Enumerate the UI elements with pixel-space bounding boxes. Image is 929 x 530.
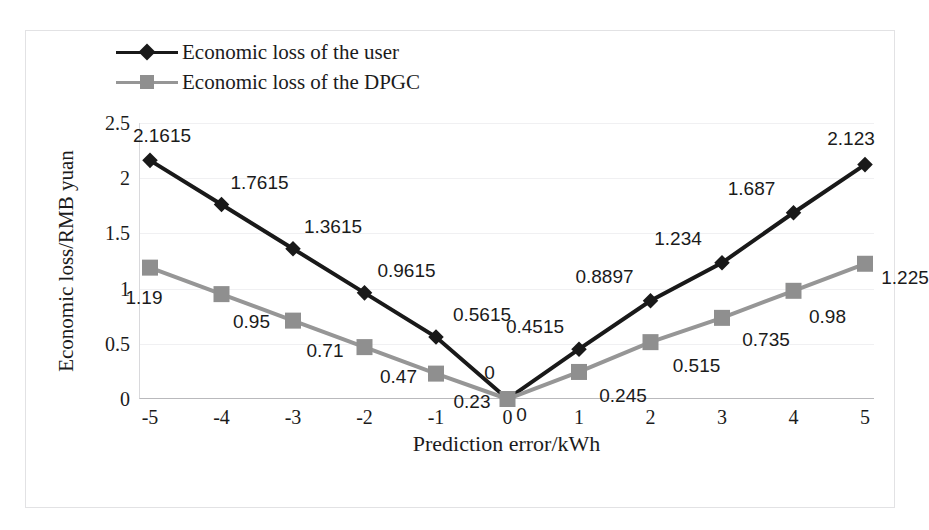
data-point-label: 0.23 — [454, 391, 491, 413]
data-point-label: 1.7615 — [230, 172, 288, 194]
chart-figure: Economic loss of the user Economic loss … — [25, 30, 895, 508]
x-tick-label: -4 — [213, 406, 230, 429]
data-point-label: 1.3615 — [304, 216, 362, 238]
y-tick-label: 2.5 — [105, 112, 130, 135]
data-point-label: 1.225 — [881, 267, 929, 289]
square-marker-icon — [285, 313, 301, 329]
x-tick-label: 0 — [503, 406, 513, 429]
data-point-label: 0.98 — [809, 306, 846, 328]
x-tick-label: 3 — [717, 406, 727, 429]
square-marker-icon — [857, 256, 873, 272]
x-tick-label: -2 — [356, 406, 373, 429]
square-marker-icon — [142, 260, 158, 276]
y-axis-label: Economic loss/RMB yuan — [54, 123, 82, 399]
data-point-label: 1.234 — [654, 228, 702, 250]
data-point-label: 1.19 — [126, 287, 163, 309]
y-tick-label: 2 — [120, 167, 130, 190]
data-point-label: 0.47 — [380, 366, 417, 388]
square-marker-icon — [571, 364, 587, 380]
square-marker-icon — [500, 391, 516, 407]
square-marker-icon — [214, 286, 230, 302]
x-tick-label: -1 — [428, 406, 445, 429]
plot-area: 00.511.522.5 -5-4-3-2-1012345 2.16151.76… — [139, 123, 874, 399]
square-marker-icon — [714, 310, 730, 326]
data-point-label: 0.9615 — [377, 260, 435, 282]
data-point-label: 0.8897 — [575, 266, 633, 288]
y-tick-label: 1.5 — [105, 222, 130, 245]
y-tick-label: 0.5 — [105, 332, 130, 355]
x-tick-label: 2 — [646, 406, 656, 429]
data-point-label: 0.4515 — [506, 316, 564, 338]
data-point-label: 2.123 — [827, 128, 875, 150]
x-tick-label: 5 — [860, 406, 870, 429]
x-tick-label: -3 — [285, 406, 302, 429]
data-point-label: 0.245 — [599, 385, 647, 407]
data-point-label: 0.735 — [742, 329, 790, 351]
data-point-label: 0.5615 — [453, 304, 511, 326]
data-point-label: 0.95 — [233, 311, 270, 333]
square-marker-icon — [786, 283, 802, 299]
x-tick-label: -5 — [142, 406, 159, 429]
x-axis-label: Prediction error/kWh — [139, 431, 874, 457]
series-canvas — [140, 123, 875, 399]
square-marker-icon — [357, 339, 373, 355]
data-point-label: 0.71 — [307, 340, 344, 362]
data-point-label: 1.687 — [728, 178, 776, 200]
x-tick-label: 1 — [574, 406, 584, 429]
data-point-label: 0.515 — [673, 355, 721, 377]
x-tick-label: 4 — [789, 406, 799, 429]
y-tick-label: 0 — [120, 388, 130, 411]
data-point-label: 0 — [484, 362, 495, 384]
data-point-label: 2.1615 — [133, 125, 191, 147]
data-point-label: 0 — [516, 404, 527, 426]
square-marker-icon — [428, 366, 444, 382]
plot-wrapper: Economic loss/RMB yuan 00.511.522.5 -5-4… — [26, 31, 896, 509]
square-marker-icon — [643, 334, 659, 350]
